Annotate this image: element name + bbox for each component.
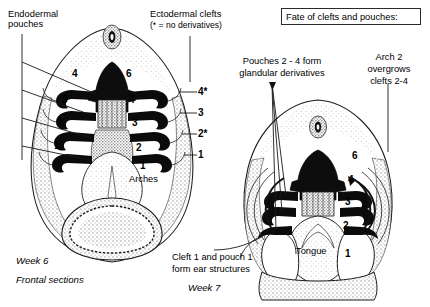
arch-number-4-left: 4 [129, 94, 135, 105]
arch-number-2-left: 2 [136, 142, 142, 153]
pouch-number-3: 3 [62, 94, 68, 105]
pouches-2-4-label-line1: Pouches 2 - 4 form [226, 56, 338, 66]
arch-number-2-right: 2 [343, 220, 349, 231]
arch-number-6-right: 6 [352, 150, 358, 161]
title-box: Fate of clefts and pouches: [281, 8, 421, 25]
ear-structures-label-line1: Cleft 1 and pouch 1 [172, 252, 253, 262]
pouches-2-4-label-line2: glandular derivatives [226, 68, 338, 78]
frontal-sections-caption: Frontal sections [16, 275, 84, 286]
ectodermal-clefts-label-line1: Ectodermal clefts [150, 9, 221, 19]
arch-number-1-left: 1 [140, 160, 146, 171]
arch2-label-line1: Arch 2 [358, 52, 420, 62]
pouches-leader-arrowhead [269, 82, 276, 90]
cleft-number-4: 4* [198, 86, 207, 97]
embryology-figure: Fate of clefts and pouches: Endodermal p… [0, 0, 430, 307]
arch-number-4-right: 4 [348, 174, 354, 185]
arch-number-1-right: 1 [345, 248, 351, 259]
tongue-label: Tongue [296, 246, 327, 256]
endodermal-pouches-label: Endodermal pouches [8, 9, 58, 30]
arch-number-6-left: 6 [126, 68, 132, 79]
cleft-number-1: 1 [198, 149, 204, 160]
left-section-week6 [22, 25, 197, 262]
ear-structures-label-line2: form ear structures [172, 264, 250, 274]
cleft-number-2: 2* [198, 128, 207, 139]
week7-caption: Week 7 [188, 283, 220, 294]
week6-caption: Week 6 [16, 256, 48, 267]
pouch-number-2: 2 [58, 116, 64, 127]
cleft-number-3: 3 [198, 107, 204, 118]
pouch-number-1: 1 [54, 140, 60, 151]
arch-number-3-right: 3 [345, 196, 351, 207]
midline-rosette-left [103, 25, 121, 49]
ectodermal-clefts-label-line2: (* = no derivatives) [150, 21, 222, 31]
pouch-number-4: 4 [72, 68, 78, 79]
arch2-label-line3: clefts 2-4 [358, 76, 420, 86]
arches-label: Arches [129, 174, 158, 184]
arch2-label-line2: overgrows [358, 64, 420, 74]
title-box-text: Fate of clefts and pouches: [282, 9, 420, 22]
midline-rosette-right [310, 116, 327, 138]
arch-number-3-left: 3 [132, 117, 138, 128]
